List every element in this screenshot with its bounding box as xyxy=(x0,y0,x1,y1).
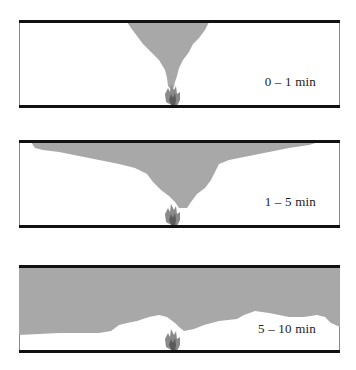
time-label: 1 – 5 min xyxy=(265,194,316,210)
room-diagram-1 xyxy=(19,20,340,108)
panel-5-10-min: 5 – 10 min xyxy=(19,265,340,351)
floor xyxy=(19,105,340,108)
panel-0-1-min: 0 – 1 min xyxy=(19,20,340,106)
time-label: 5 – 10 min xyxy=(258,321,316,337)
room-diagram-2 xyxy=(19,140,340,228)
ceiling xyxy=(19,20,340,23)
time-label: 0 – 1 min xyxy=(265,74,316,90)
floor xyxy=(19,350,340,353)
floor xyxy=(19,225,340,228)
ceiling xyxy=(19,140,340,143)
room-diagram-3 xyxy=(19,265,340,353)
ceiling xyxy=(19,265,340,268)
panel-1-5-min: 1 – 5 min xyxy=(19,140,340,226)
